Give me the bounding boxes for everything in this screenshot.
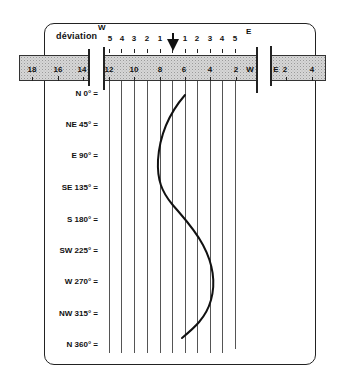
arrow-down-icon xyxy=(167,33,179,51)
diagram-overlay xyxy=(0,0,349,384)
deviation-curve xyxy=(158,95,213,338)
